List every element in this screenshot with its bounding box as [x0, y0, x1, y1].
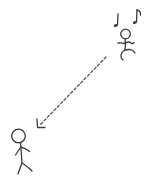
sketch-illustration — [0, 0, 151, 189]
standing-figure-left-arm — [16, 147, 21, 155]
dancing-figure-right-leg — [125, 50, 135, 54]
standing-figure-body — [21, 143, 23, 163]
dancing-figure-left-leg — [121, 50, 125, 60]
music-notes-icon — [113, 10, 140, 27]
standing-figure-right-leg — [22, 163, 32, 171]
dancing-figure-body — [125, 39, 126, 50]
sketch-canvas: Hand-drawn sketch: a dancing stick figur… — [0, 0, 151, 189]
dancing-figure-right-arm — [125, 42, 134, 44]
dancing-figure — [118, 29, 135, 60]
dancing-figure-left-arm — [118, 43, 125, 44]
standing-figure-head — [12, 129, 26, 143]
standing-figure-left-leg — [18, 163, 22, 174]
dashed-arrow — [37, 57, 106, 128]
music-note-icon — [113, 14, 118, 27]
standing-figure-right-arm — [21, 147, 30, 152]
arrow-shaft — [40, 57, 107, 126]
dancing-figure-head — [121, 29, 131, 39]
music-note-icon — [132, 10, 140, 24]
standing-figure — [12, 129, 32, 174]
